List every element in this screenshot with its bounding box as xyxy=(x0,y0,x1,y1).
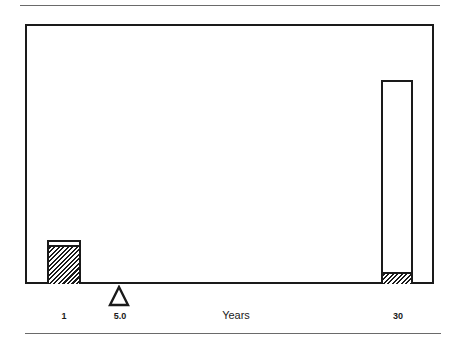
top-rule xyxy=(20,5,440,6)
bar-year-1 xyxy=(47,240,81,284)
bar-year-1-hatched-segment xyxy=(49,245,79,284)
bottom-rule xyxy=(25,333,441,334)
marker-value-label: 5.0 xyxy=(114,311,127,321)
x-tick-label-30: 30 xyxy=(393,311,403,321)
x-axis-title: Years xyxy=(222,309,250,321)
x-tick-label-1: 1 xyxy=(61,311,66,321)
triangle-marker-icon xyxy=(108,285,130,307)
bar-year-30-hatched-segment xyxy=(383,272,411,284)
bar-year-30 xyxy=(381,80,413,284)
plot-frame xyxy=(25,24,434,284)
